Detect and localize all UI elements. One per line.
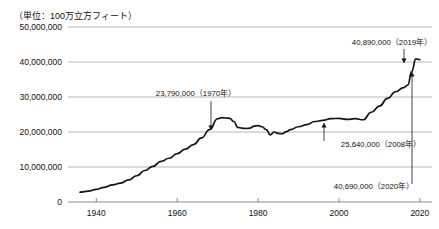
line-chart-svg: 010,000,00020,000,00030,000,00040,000,00… xyxy=(0,0,439,229)
y-axis-tick-label: 40,000,000 xyxy=(19,57,62,67)
y-axis-tick-label: 10,000,000 xyxy=(19,162,62,172)
y-axis-tick-label: 30,000,000 xyxy=(19,92,62,102)
annotation-arrowhead xyxy=(321,123,326,128)
x-axis-tick-labels: 19401960198020002020 xyxy=(87,208,430,218)
annotation-label: 40,690,000（2020年） xyxy=(334,181,414,191)
x-axis-tick-label: 2020 xyxy=(410,208,429,218)
data-line xyxy=(80,59,420,192)
y-axis-tick-label: 0 xyxy=(57,197,62,207)
x-axis-tick-label: 1940 xyxy=(87,208,106,218)
annotations-group: 23,790,000（1970年）40,890,000（2019年）25,640… xyxy=(156,37,432,191)
annotation-label: 25,640,000（2008年） xyxy=(341,139,421,149)
y-axis-tick-labels: 010,000,00020,000,00030,000,00040,000,00… xyxy=(19,22,62,207)
annotation-label: 23,790,000（1970年） xyxy=(156,88,236,98)
chart-container: （単位：100万立方フィート） 010,000,00020,000,00030,… xyxy=(0,0,439,229)
x-axis-tick-label: 1960 xyxy=(168,208,187,218)
x-axis-tick-label: 1980 xyxy=(249,208,268,218)
y-axis-tick-label: 50,000,000 xyxy=(19,22,62,32)
x-axis-tick-label: 2000 xyxy=(330,208,349,218)
data-series-group xyxy=(80,59,420,192)
annotation-label: 40,890,000（2019年） xyxy=(352,37,432,47)
y-axis-tick-label: 20,000,000 xyxy=(19,127,62,137)
x-axis-group xyxy=(68,198,432,202)
